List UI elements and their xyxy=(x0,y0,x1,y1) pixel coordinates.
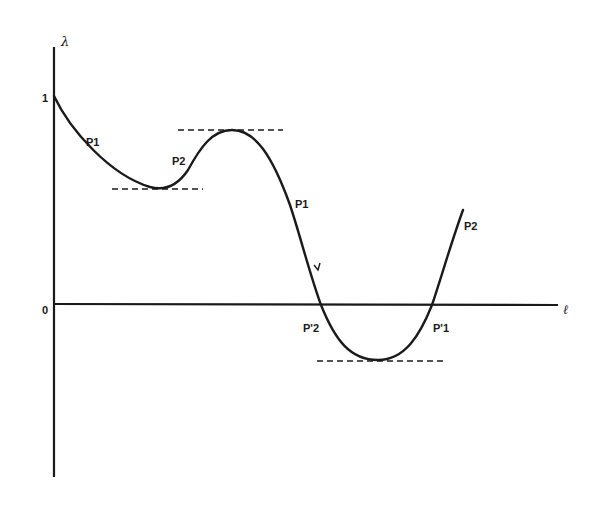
curve-label-p1-prime: P'1 xyxy=(433,322,449,334)
curve-label-p1-upper-left: P1 xyxy=(86,136,99,148)
direction-arrow-icon xyxy=(314,263,320,270)
y-tick-1: 1 xyxy=(42,92,48,104)
stability-diagram: ℓ λ 1 0 P1 P2 P1 P2 P'2 P'1 xyxy=(0,0,605,507)
x-axis-label: ℓ xyxy=(563,302,569,317)
y-axis-label: λ xyxy=(60,34,69,49)
lambda-curve xyxy=(54,96,463,360)
curve-label-p2-right: P2 xyxy=(464,220,477,232)
x-axis xyxy=(54,304,558,305)
curve-label-p2-prime: P'2 xyxy=(303,322,319,334)
curve-label-p1-descending: P1 xyxy=(295,198,308,210)
y-tick-0: 0 xyxy=(42,304,48,316)
curve-label-p2-upper: P2 xyxy=(172,155,185,167)
